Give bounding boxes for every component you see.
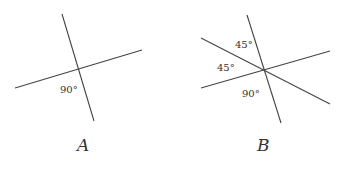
figure-a-line-steep	[62, 14, 94, 121]
figure-a-line-shallow	[15, 50, 142, 88]
figure-b-angle-90: 90°	[242, 88, 260, 99]
figure-a-angle-90: 90°	[60, 84, 78, 95]
figure-b: 45° 45° 90° B	[201, 15, 330, 155]
figure-b-line-steep	[247, 15, 281, 123]
figure-a: 90° A	[15, 14, 142, 155]
figure-b-label: B	[256, 135, 270, 155]
diagram-canvas: 90° A 45° 45° 90° B	[0, 0, 347, 181]
figure-a-label: A	[75, 135, 89, 155]
figure-b-angle-45-upper: 45°	[235, 39, 253, 50]
figure-b-angle-45-left: 45°	[217, 62, 235, 73]
